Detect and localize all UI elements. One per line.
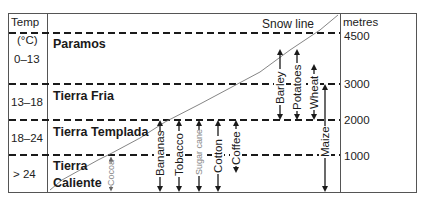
wheat-label: Wheat (308, 75, 320, 109)
cotton-label: Cotton (212, 139, 224, 173)
potatoes-label: Potatoes (291, 64, 303, 110)
temp-band-1: 0–13 (14, 53, 40, 65)
bananas-label: Bananas (154, 130, 166, 176)
snow-line-label: Snow line (262, 17, 314, 31)
cocoa-label: Cocoa (106, 160, 116, 186)
altitude-4500: 4500 (344, 30, 370, 42)
temp-band-2: 13–18 (11, 96, 43, 108)
altitude-3000: 3000 (344, 78, 370, 90)
crop-maize: Maize (319, 87, 331, 189)
zone-tierra-caliente-line2: Caliente (53, 176, 102, 190)
crop-potatoes: Potatoes (291, 52, 303, 117)
crop-sugar-cane: Sugar cane (194, 123, 204, 189)
temp-band-4: > 24 (13, 168, 36, 180)
zone-tierra-caliente-line1: Tierra (53, 159, 89, 173)
zone-paramos: Paramos (53, 37, 106, 51)
temp-band-3: 18–24 (11, 132, 44, 144)
tobacco-label: Tobacco (173, 133, 185, 176)
barley-label: Barley (274, 71, 286, 104)
crop-cocoa: Cocoa (106, 159, 116, 189)
crop-barley: Barley (274, 52, 286, 117)
zone-tierra-templada: Tierra Templada (53, 125, 149, 139)
crop-bananas: Bananas (154, 123, 166, 189)
altitude-1000: 1000 (344, 150, 370, 162)
crop-wheat: Wheat (308, 67, 320, 117)
altitude-2000: 2000 (344, 114, 370, 126)
crop-cotton: Cotton (212, 123, 224, 189)
temp-header: Temp (11, 16, 39, 28)
altitude-unit: metres (343, 16, 378, 28)
crop-coffee: Coffee (230, 123, 242, 170)
coffee-label: Coffee (230, 131, 242, 165)
crop-tobacco: Tobacco (173, 123, 185, 189)
sugar-cane-label: Sugar cane (194, 129, 204, 175)
altitude-zones-diagram: Snow line Temp (°C) 0–13 13–18 18–24 > 2… (0, 0, 421, 200)
zone-tierra-fria: Tierra Fria (53, 89, 115, 103)
temp-unit: (°C) (17, 34, 38, 46)
maize-label: Maize (319, 126, 331, 157)
